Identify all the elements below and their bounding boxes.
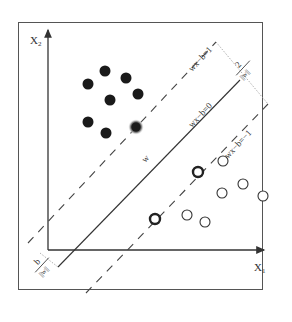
positive-support-vector (132, 123, 141, 132)
positive-point (133, 89, 144, 100)
positive-point (105, 95, 116, 106)
upper-margin-label-group: wx−b=1 (186, 44, 214, 73)
margin-fraction: 2 ||w|| (228, 53, 257, 82)
y-axis-label: X2 (30, 34, 42, 48)
offset-numerator: b (32, 256, 43, 266)
margin-numerator: 2 (233, 59, 243, 69)
negative-point (238, 179, 248, 189)
positive-class-points (83, 66, 145, 139)
upper-margin-label: wx−b=1 (186, 44, 214, 73)
normal-vector-label-group: w (139, 152, 151, 164)
negative-point (217, 188, 227, 198)
normal-vector-label: w (139, 152, 151, 164)
negative-class-points (150, 156, 268, 227)
margin-denominator: ||w|| (238, 68, 251, 81)
negative-point (258, 191, 268, 201)
positive-point (83, 117, 94, 128)
negative-point (200, 217, 210, 227)
negative-support-vector (193, 167, 203, 177)
negative-support-vector (150, 214, 160, 224)
positive-point (100, 66, 111, 77)
svm-diagram: X2 X1 wx−b=1 wx−b=0 wx−b=−1 w 2 ||w|| b … (0, 0, 292, 322)
lower-margin-label: wx−b=−1 (222, 128, 253, 161)
x-axis-label: X1 (254, 261, 266, 275)
negative-point (218, 156, 228, 166)
positive-point (121, 73, 132, 84)
lower-margin-label-group: wx−b=−1 (222, 128, 253, 161)
negative-point (182, 210, 192, 220)
positive-point (83, 79, 94, 90)
offset-fraction: b ||w|| (27, 250, 56, 279)
hyperplane-label: wx−b=0 (186, 100, 214, 129)
positive-point (101, 128, 112, 139)
hyperplane-label-group: wx−b=0 (186, 100, 214, 129)
offset-guide (40, 253, 58, 267)
offset-denominator: ||w|| (37, 265, 50, 278)
